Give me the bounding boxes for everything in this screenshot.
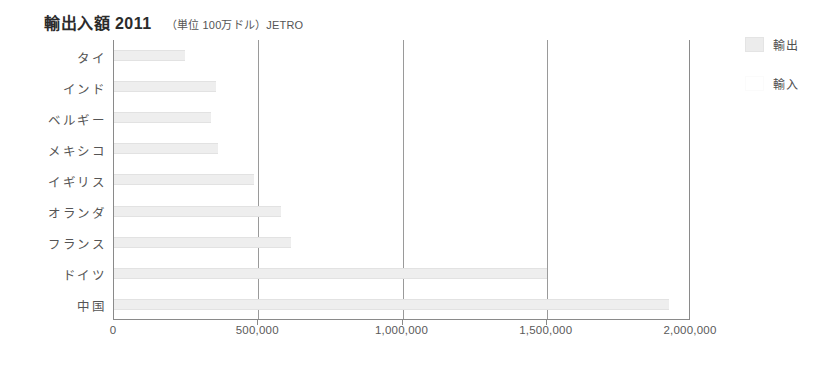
x-axis-labels: 0500,0001,000,0001,500,0002,000,000: [0, 324, 840, 344]
bar-export: [114, 206, 281, 217]
bar-export: [114, 81, 216, 92]
y-axis-tick-label: フランス: [0, 234, 106, 253]
legend-swatch-export-icon: [745, 37, 764, 52]
y-axis-labels: タイインドベルギーメキシコイギリスオランダフランスドイツ中国: [0, 40, 106, 320]
bar-export: [114, 299, 669, 310]
y-axis-tick-label: メキシコ: [0, 141, 106, 160]
x-axis-tick-label: 0: [110, 324, 117, 336]
y-axis-tick-label: タイ: [0, 48, 106, 67]
bar-row: [114, 102, 689, 133]
chart-legend: 輸出 輸入: [745, 36, 837, 114]
x-axis-tick-label: 500,000: [236, 324, 279, 336]
x-axis-tick-label: 2,000,000: [664, 324, 717, 336]
bar-row: [114, 40, 689, 71]
bar-row: [114, 258, 689, 289]
bar-export: [114, 112, 211, 123]
x-axis-tick: [546, 320, 547, 325]
bar-export: [114, 268, 547, 279]
bar-row: [114, 227, 689, 258]
x-axis-tick: [257, 320, 258, 325]
legend-item-import: 輸入: [745, 75, 837, 92]
y-axis-tick-label: オランダ: [0, 203, 106, 222]
bar-row: [114, 289, 689, 320]
y-axis-tick-label: 中国: [0, 296, 106, 315]
bar-row: [114, 196, 689, 227]
plot-area: [113, 40, 690, 320]
bar-export: [114, 174, 254, 185]
y-axis-tick-label: イギリス: [0, 172, 106, 191]
x-axis-tick-label: 1,500,000: [519, 324, 572, 336]
bar-row: [114, 133, 689, 164]
legend-label-export: 輸出: [773, 36, 798, 53]
legend-swatch-import-icon: [745, 76, 764, 91]
bar-export: [114, 237, 291, 248]
bar-export: [114, 143, 218, 154]
x-axis-tick-label: 1,000,000: [375, 324, 428, 336]
chart-subtitle: （単位 100万ドル）JETRO: [166, 16, 304, 32]
legend-item-export: 輸出: [745, 36, 837, 53]
legend-label-import: 輸入: [773, 75, 798, 92]
bar-export: [114, 50, 185, 61]
bar-row: [114, 71, 689, 102]
y-axis-tick-label: ベルギー: [0, 110, 106, 129]
x-axis-tick: [402, 320, 403, 325]
y-axis-tick-label: インド: [0, 79, 106, 98]
chart-container: 輸出入額 2011 （単位 100万ドル）JETRO タイインドベルギーメキシコ…: [0, 0, 840, 368]
bar-row: [114, 164, 689, 195]
y-axis-tick-label: ドイツ: [0, 265, 106, 284]
page-title: 輸出入額 2011: [44, 10, 152, 34]
title-block: 輸出入額 2011 （単位 100万ドル）JETRO: [44, 10, 303, 34]
bar-rows: [114, 40, 689, 319]
